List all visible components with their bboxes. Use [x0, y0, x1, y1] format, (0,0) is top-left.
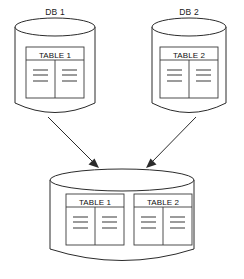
target-table-1-title: TABLE 1	[79, 198, 112, 207]
db1-label: DB 1	[45, 7, 65, 17]
target-cylinder-top	[50, 169, 194, 191]
db2-table-2-title: TABLE 2	[173, 51, 206, 60]
db1-table-1: TABLE 1	[26, 47, 84, 98]
target-table-2-title: TABLE 2	[147, 198, 180, 207]
db1-cylinder-top	[15, 18, 95, 36]
target-table-1: TABLE 1	[66, 194, 124, 245]
flow-arrow-db1-head	[89, 159, 100, 169]
flow-arrow-db2-head	[146, 159, 157, 169]
db1-table-1-title: TABLE 1	[39, 51, 72, 60]
diagram-canvas: DB 1 TABLE 1 DB 2	[0, 0, 244, 279]
database-consolidation-diagram: DB 1 TABLE 1 DB 2	[0, 0, 244, 279]
db2-cylinder-top	[152, 18, 226, 36]
flow-arrow-db2-to-target	[146, 117, 196, 168]
db2-label: DB 2	[179, 7, 199, 17]
db2-table-2: TABLE 2	[160, 47, 218, 98]
target-table-2: TABLE 2	[134, 194, 192, 245]
source-database-db2: DB 2 TABLE 2	[152, 7, 226, 113]
flow-arrow-db2-line	[151, 117, 196, 163]
source-database-db1: DB 1 TABLE 1	[15, 7, 95, 113]
target-database: TABLE 1 TABLE 2	[50, 169, 194, 261]
flow-arrow-db1-to-target	[48, 117, 99, 168]
flow-arrow-db1-line	[48, 117, 94, 163]
